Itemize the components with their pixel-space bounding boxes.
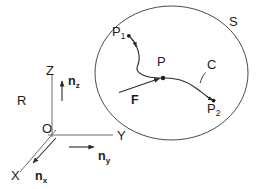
curve-direction-arrow-start (132, 39, 137, 48)
frame-label: R (17, 93, 26, 108)
axis-x-label: X (11, 168, 20, 183)
force-vector-arrow (119, 79, 160, 93)
curve-direction-arrow-end (206, 96, 213, 100)
point-p2-label: P2 (207, 101, 221, 118)
axis-x-line (20, 130, 56, 172)
axis-z-label: Z (46, 63, 54, 78)
figure-canvas: S P1 P P2 C F R Z Y X (0, 0, 257, 189)
curve-c-path (129, 36, 214, 101)
point-p-label: P (157, 54, 166, 69)
force-label: F (131, 93, 139, 107)
curve-label-leader (200, 73, 205, 84)
curve-label: C (207, 57, 216, 72)
normal-y-label: ny (98, 149, 111, 165)
normal-x-label: nx (35, 169, 48, 185)
point-p1-marker (127, 34, 131, 38)
surface-label: S (229, 14, 238, 29)
normal-z-label: nz (68, 74, 80, 90)
axis-y-label: Y (117, 128, 126, 143)
point-p-marker (161, 76, 165, 80)
vector-field-surface-diagram: S P1 P P2 C F R Z Y X (0, 0, 257, 189)
origin-label: O (42, 121, 52, 136)
point-p1-label: P1 (112, 24, 126, 41)
normal-x-arrow (33, 138, 56, 163)
